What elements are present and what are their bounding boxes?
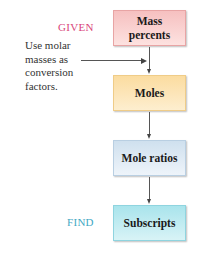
arrow-down-icon	[147, 134, 151, 139]
note-arrow-line	[81, 60, 143, 61]
step-box-mole-ratios: Mole ratios	[113, 140, 186, 176]
given-label: GIVEN	[58, 21, 94, 33]
step-box-mass-percents: Mass percents	[113, 10, 186, 46]
step-label: Subscripts	[124, 216, 176, 230]
conversion-note: Use molar masses as conversion factors.	[25, 39, 85, 93]
step-label: Mole ratios	[122, 151, 178, 165]
connector-line	[149, 177, 150, 200]
arrow-down-icon	[147, 199, 151, 204]
connector-line	[149, 112, 150, 135]
step-label: Mass percents	[125, 14, 175, 42]
connector-line	[149, 47, 150, 70]
arrow-down-icon	[147, 69, 151, 74]
find-label: FIND	[67, 216, 94, 228]
note-arrow-icon	[141, 58, 147, 64]
step-box-subscripts: Subscripts	[113, 205, 186, 241]
step-label: Moles	[135, 86, 164, 100]
step-box-moles: Moles	[113, 75, 186, 111]
